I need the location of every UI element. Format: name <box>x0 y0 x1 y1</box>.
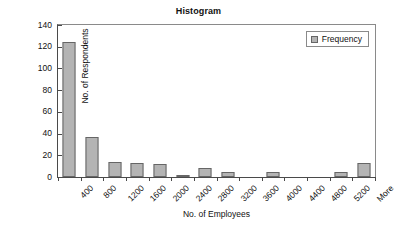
bar-4000 <box>267 172 280 177</box>
x-tick-label-1200: 1200 <box>125 183 145 203</box>
bar-1200 <box>108 162 121 177</box>
y-tick-label: 120 <box>38 41 52 51</box>
y-tick-label: 40 <box>43 128 52 138</box>
bar-3200 <box>221 172 234 177</box>
bar-2000 <box>153 164 166 177</box>
y-tick-label: 80 <box>43 85 52 95</box>
y-tick-label: 140 <box>38 20 52 30</box>
x-tick-mark <box>171 177 172 181</box>
x-tick-mark <box>103 177 104 181</box>
x-tick-mark <box>262 177 263 181</box>
legend-label-frequency: Frequency <box>322 34 362 44</box>
frequency-swatch-icon <box>311 36 318 43</box>
bar-slot <box>58 25 81 177</box>
bar-slot <box>194 25 217 177</box>
x-tick-label-2400: 2400 <box>193 183 213 203</box>
bar-slot <box>330 25 353 177</box>
bar-1600 <box>131 163 144 177</box>
x-tick-label-400: 400 <box>78 183 95 200</box>
x-tick-label-2800: 2800 <box>216 183 236 203</box>
bar-slot <box>239 25 262 177</box>
bar-slot <box>352 25 375 177</box>
x-tick-label-4800: 4800 <box>329 183 349 203</box>
x-tick-label-4000: 4000 <box>284 183 304 203</box>
bar-slot <box>307 25 330 177</box>
bar-2400 <box>176 175 189 177</box>
bar-more <box>357 163 370 177</box>
bar-400 <box>63 42 76 177</box>
bar-800 <box>85 137 98 177</box>
bar-slot <box>262 25 285 177</box>
x-tick-mark <box>149 177 150 181</box>
bar-slot <box>126 25 149 177</box>
legend: Frequency <box>306 31 369 47</box>
x-tick-mark <box>352 177 353 181</box>
x-tick-mark <box>330 177 331 181</box>
x-tick-label-3600: 3600 <box>261 183 281 203</box>
x-tick-mark <box>239 177 240 181</box>
x-tick-mark <box>194 177 195 181</box>
bar-slot <box>284 25 307 177</box>
x-axis-title: No. of Employees <box>57 209 376 219</box>
x-tick-mark <box>126 177 127 181</box>
x-tick-mark <box>375 177 376 181</box>
bar-slot <box>171 25 194 177</box>
y-tick-label: 20 <box>43 150 52 160</box>
x-tick-label-800: 800 <box>101 183 118 200</box>
bars-layer <box>58 25 375 177</box>
x-tick-label-1600: 1600 <box>148 183 168 203</box>
bar-slot <box>81 25 104 177</box>
x-tick-label-4400: 4400 <box>306 183 326 203</box>
x-tick-mark <box>81 177 82 181</box>
x-tick-label-2000: 2000 <box>170 183 190 203</box>
x-tick-mark <box>307 177 308 181</box>
x-tick-label-3200: 3200 <box>238 183 258 203</box>
chart-title: Histogram <box>0 6 397 16</box>
bar-slot <box>103 25 126 177</box>
x-tick-mark <box>58 177 59 181</box>
bar-slot <box>149 25 172 177</box>
x-tick-label-5200: 5200 <box>352 183 372 203</box>
bar-2800 <box>199 168 212 177</box>
x-tick-mark <box>217 177 218 181</box>
y-tick-label: 100 <box>38 63 52 73</box>
bar-slot <box>217 25 240 177</box>
histogram-chart: Histogram No. of Respondents 02040608010… <box>0 0 397 227</box>
bar-5200 <box>335 172 348 177</box>
y-tick-label: 60 <box>43 106 52 116</box>
x-tick-mark <box>284 177 285 181</box>
plot-area: No. of Respondents 020406080100120140 40… <box>57 24 376 178</box>
x-tick-label-more: More <box>374 183 395 204</box>
y-tick-label: 0 <box>47 172 52 182</box>
